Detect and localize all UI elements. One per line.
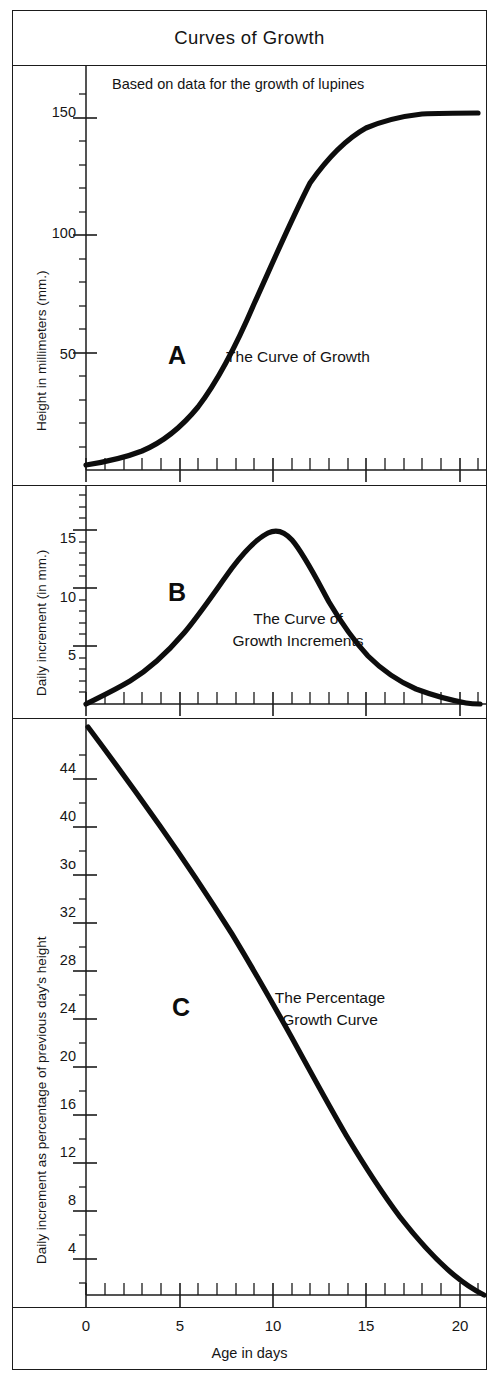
panel-b-increment-curve [86,531,480,704]
xtick-label-15: 15 [346,1317,386,1334]
panel-b-plot [0,486,499,718]
panel-a-growth-curve [86,113,478,465]
xtick-label-5: 5 [160,1317,200,1334]
x-axis-title: Age in days [0,1345,499,1361]
xtick-label-20: 20 [440,1317,480,1334]
x-axis-label-band: 0 5 10 15 20 Age in days [0,1307,499,1370]
panel-a: Based on data for the growth of lupines … [0,66,499,485]
xtick-label-0: 0 [66,1317,106,1334]
curves-of-growth-figure: Curves of Growth Based on data for the g… [0,0,499,1390]
panel-b-y-major-ticks [73,530,97,646]
panel-a-y-major-ticks [73,118,97,353]
panel-b-y-minor-ticks [79,495,86,692]
panel-a-y-minor-ticks [79,94,86,447]
page-title: Curves of Growth [174,27,324,49]
panel-b: Daily increment (in mm.) 15 10 5 B The C… [0,486,499,718]
figure-title-band: Curves of Growth [12,10,487,66]
panel-c: Daily increment as percentage of previou… [0,719,499,1307]
panel-c-plot [0,719,499,1307]
panel-c-percentage-curve [88,727,484,1295]
xtick-label-10: 10 [253,1317,293,1334]
panel-a-plot [0,66,499,485]
